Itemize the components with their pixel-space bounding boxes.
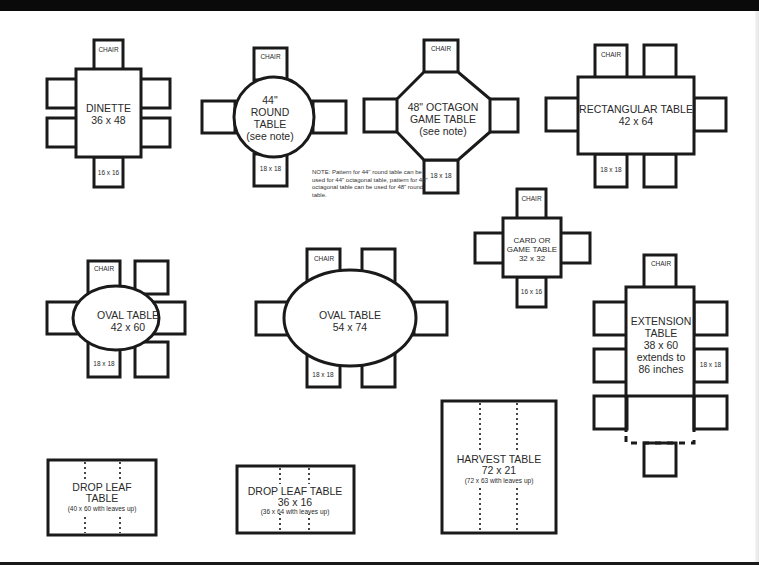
chair-size: 18 x 18 <box>600 166 622 173</box>
chair-right <box>414 302 447 335</box>
chair-right <box>560 233 590 263</box>
table-label-line: CARD OR <box>514 236 551 245</box>
chair-left-2 <box>594 349 627 382</box>
table-label-line: GAME TABLE <box>507 245 557 254</box>
table-label-line: 38 x 60 <box>644 339 679 351</box>
table-size: 42 x 64 <box>619 115 654 127</box>
oval-table-small-pattern: CHAIR OVAL TABLE 42 x 60 18 x 18 <box>47 261 185 377</box>
table-size: 54 x 74 <box>333 321 368 333</box>
chair-right <box>313 101 346 133</box>
table-label-line: 36 x 16 <box>278 496 313 508</box>
table-label-line: TABLE <box>645 327 677 339</box>
table-label-line: (see note) <box>246 130 293 142</box>
harvest-table-pattern: HARVEST TABLE 72 x 21 (72 x 63 with leav… <box>442 401 556 533</box>
table-label-line: 86 inches <box>639 363 684 375</box>
chair-label: CHAIR <box>314 255 335 262</box>
chair-left-1 <box>47 79 77 108</box>
table-label-line: EXTENSION <box>631 315 692 327</box>
chair-right <box>694 98 726 131</box>
chair-left-3 <box>594 396 627 429</box>
chair-label: CHAIR <box>431 45 452 52</box>
chair-size: 16 x 16 <box>521 288 543 295</box>
chair-label: CHAIR <box>98 46 119 53</box>
chair-size: 18 x 18 <box>430 172 452 179</box>
drop-leaf-table-2-pattern: DROP LEAF TABLE 36 x 16 (36 x 64 with le… <box>237 466 354 533</box>
table-label-line: ROUND <box>251 106 290 118</box>
chair-left-2 <box>47 118 77 147</box>
table-label-line: (40 x 60 with leaves up) <box>68 505 137 513</box>
table-label-line: TABLE <box>86 492 118 504</box>
extension-leaf-sides <box>626 396 694 432</box>
chair-bottom <box>644 443 676 476</box>
chair-label: CHAIR <box>521 195 542 202</box>
table-name: RECTANGULAR TABLE <box>579 103 693 115</box>
chair-size: 18 x 18 <box>93 360 115 367</box>
extension-leaf-outline <box>626 436 694 443</box>
chair-left <box>364 99 398 132</box>
table-name: OVAL TABLE <box>319 309 381 321</box>
chair-label: CHAIR <box>651 260 672 267</box>
chair-top <box>517 189 546 219</box>
chair-top-2 <box>644 45 676 78</box>
round-table-pattern: CHAIR 44" ROUND TABLE (see note) 18 x 18 <box>202 48 346 186</box>
table-label-line: 48" OCTAGON <box>408 101 479 113</box>
extension-table-pattern: CHAIR EXTENSION TABLE 38 x 60 extends to… <box>594 255 727 476</box>
table-layout-diagram: CHAIR DINETTE 36 x 48 16 x 16 CHAIR 44" … <box>0 0 759 565</box>
table-label-line: (see note) <box>419 125 466 137</box>
chair-size: 18 x 18 <box>260 165 282 172</box>
chair-right-1 <box>694 302 727 335</box>
chair-left <box>546 98 579 131</box>
chair-top-2 <box>135 261 168 294</box>
chair-bottom-2 <box>135 342 168 377</box>
table-label-line: GAME TABLE <box>410 113 476 125</box>
table-label-line: extends to <box>637 351 686 363</box>
table-label-line: 72 x 21 <box>482 464 517 476</box>
chair-right-1 <box>140 79 170 108</box>
chair-size: 16 x 16 <box>98 169 120 176</box>
table-size: 32 x 32 <box>519 254 546 263</box>
rectangular-table-pattern: CHAIR RECTANGULAR TABLE 42 x 64 18 x 18 <box>546 45 726 187</box>
chair-top-1 <box>595 45 627 78</box>
chair-left <box>475 233 505 263</box>
chair-label: CHAIR <box>260 53 281 60</box>
chair-left <box>202 101 235 133</box>
pattern-note: NOTE: Pattern for 44" round table can be… <box>312 169 432 199</box>
chair-label: CHAIR <box>94 265 115 272</box>
table-size: 36 x 48 <box>91 114 126 126</box>
drop-leaf-table-1-pattern: DROP LEAF TABLE (40 x 60 with leaves up) <box>48 460 156 535</box>
table-size: 42 x 60 <box>111 321 146 333</box>
chair-size: 18 x 18 <box>312 371 334 378</box>
chair-right-2 <box>140 118 170 147</box>
chair-size: 18 x 18 <box>700 361 722 368</box>
chair-label: CHAIR <box>601 51 622 58</box>
oval-table-large-pattern: CHAIR OVAL TABLE 54 x 74 18 x 18 <box>256 249 447 387</box>
table-name: DINETTE <box>86 102 131 114</box>
table-label-line: TABLE <box>254 118 286 130</box>
table-name: OVAL TABLE <box>97 309 159 321</box>
table-label-line: 44" <box>262 94 278 106</box>
chair-left-1 <box>594 302 627 335</box>
dinette-pattern: CHAIR DINETTE 36 x 48 16 x 16 <box>47 40 170 187</box>
chair-top <box>94 40 123 70</box>
chair-bottom-2 <box>644 154 676 187</box>
chair-right-3 <box>694 396 727 429</box>
card-table-pattern: CHAIR CARD OR GAME TABLE 32 x 32 16 x 16 <box>475 189 590 307</box>
table-label-line: (72 x 63 with leaves up) <box>465 477 534 485</box>
table-label-line: (36 x 64 with leaves up) <box>261 508 330 516</box>
